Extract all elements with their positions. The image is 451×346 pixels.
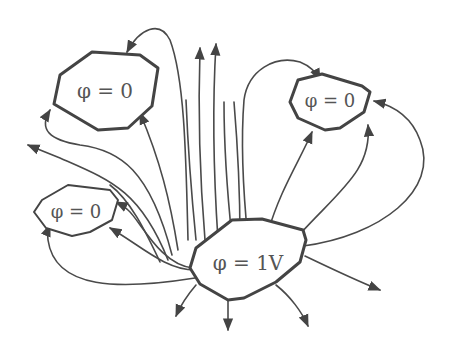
conductor-label: φ = 0 bbox=[77, 79, 133, 103]
field-line bbox=[199, 48, 205, 240]
field-line bbox=[176, 285, 196, 316]
field-line bbox=[276, 285, 308, 326]
conductor-label: φ = 0 bbox=[305, 90, 356, 111]
field-line bbox=[110, 228, 195, 270]
conductor-left: φ = 0 bbox=[34, 185, 118, 236]
conductor-label: φ = 1V bbox=[213, 251, 284, 275]
field-line bbox=[305, 256, 380, 290]
field-line bbox=[140, 113, 178, 250]
conductor-top-right: φ = 0 bbox=[290, 74, 370, 130]
field-line bbox=[116, 202, 193, 268]
field-line bbox=[300, 125, 368, 234]
field-line bbox=[214, 44, 218, 240]
field-line bbox=[268, 132, 312, 232]
field-line-diagram: φ = 0 φ = 0 φ = 0 φ = 1V bbox=[0, 0, 451, 346]
conductor-label: φ = 0 bbox=[51, 201, 102, 222]
conductor-center: φ = 1V bbox=[190, 219, 306, 300]
field-line bbox=[234, 102, 240, 238]
field-line bbox=[224, 102, 232, 238]
field-line bbox=[110, 185, 160, 262]
